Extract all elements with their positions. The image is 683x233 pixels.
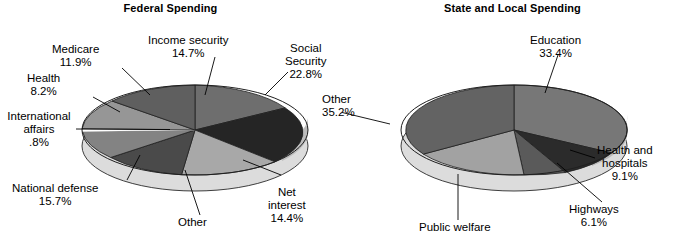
label-other-federal-name: Other [178,216,207,228]
label-income-security: Income security 14.7% [148,34,229,60]
federal-pie-stage: Income security 14.7% Social Security 22… [0,0,341,233]
federal-spending-panel: Federal Spending [0,0,341,233]
label-international-affairs-name-2: affairs [2,123,76,136]
label-income-security-name: Income security [148,34,229,46]
label-health-and-hospitals-pct: 9.1% [597,170,653,183]
label-public-welfare: Public welfare [419,221,491,233]
label-net-interest-name-1: Net [278,186,296,198]
state-local-pie-chart [342,0,683,233]
label-other-federal: Other [178,216,207,229]
label-highways: Highways 6.1% [569,203,619,229]
label-health-and-hospitals: Health and hospitals 9.1% [597,144,653,184]
label-health-and-hospitals-name-2: hospitals [597,157,653,170]
label-income-security-pct: 14.7% [148,47,229,60]
label-net-interest: Net interest 14.4% [268,186,306,226]
label-net-interest-name-2: interest [268,199,306,212]
label-international-affairs-name-1: International [7,110,70,122]
label-international-affairs: International affairs .8% [2,110,76,150]
label-national-defense-pct: 15.7% [12,195,98,208]
label-net-interest-pct: 14.4% [268,212,306,225]
label-social-security-name-2: Security [285,55,327,68]
label-medicare: Medicare 11.9% [52,43,99,69]
label-social-security-name-1: Social [290,42,321,54]
label-education: Education 33.4% [530,34,581,60]
label-international-affairs-pct: .8% [2,136,76,149]
label-education-name: Education [530,34,581,46]
label-medicare-name: Medicare [52,43,99,55]
label-other-state-local: Other 35.2% [322,93,355,119]
label-highways-name: Highways [569,203,619,215]
label-other-state-local-name: Other [322,93,351,105]
label-education-pct: 33.4% [530,47,581,60]
label-health-name: Health [27,72,60,84]
label-national-defense: National defense 15.7% [12,182,98,208]
label-health: Health 8.2% [27,72,60,98]
label-social-security: Social Security 22.8% [285,42,327,82]
label-health-and-hospitals-name-1: Health and [597,144,653,156]
label-other-state-local-pct: 35.2% [322,106,355,119]
label-health-pct: 8.2% [27,85,60,98]
label-highways-pct: 6.1% [569,216,619,229]
label-medicare-pct: 11.9% [52,56,99,69]
state-local-pie-stage: Education 33.4% Other 35.2% Health and h… [342,0,683,233]
label-public-welfare-name: Public welfare [419,221,491,233]
state-local-spending-panel: State and Local Spending [342,0,683,233]
label-social-security-pct: 22.8% [285,68,327,81]
label-national-defense-name: National defense [12,182,98,194]
